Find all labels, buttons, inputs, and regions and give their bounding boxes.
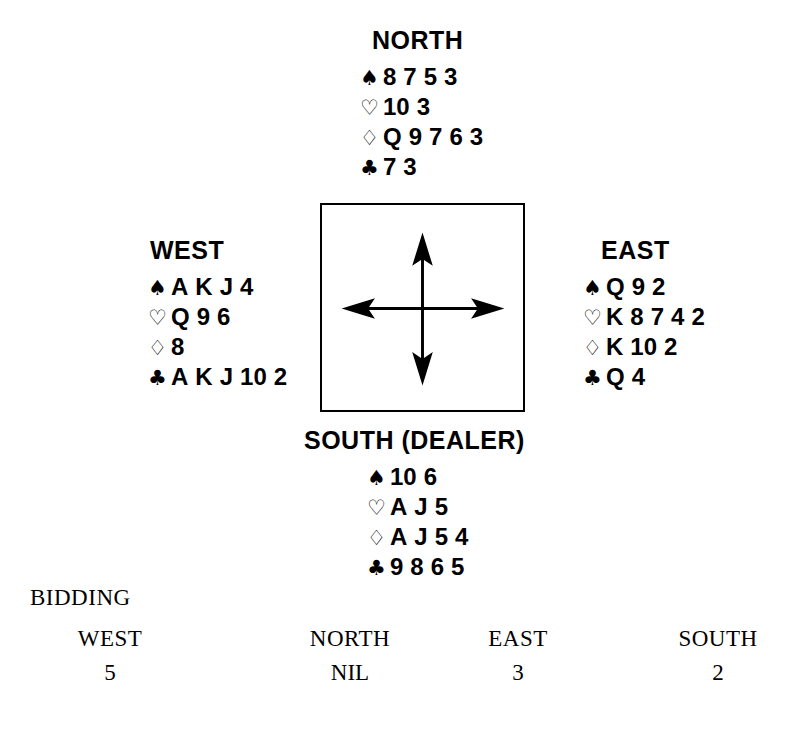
bidding-seat-label: NORTH (280, 624, 420, 654)
hand-south-suits: ♠ 106 ♡ AJ5 ♢ AJ54 ♣ 9865 (367, 462, 525, 582)
club-icon: ♣ (360, 153, 383, 183)
club-icon: ♣ (583, 363, 606, 393)
hand-north-diamond-cards: Q9763 (383, 122, 483, 152)
card: J (414, 523, 427, 550)
card: J (220, 273, 233, 300)
hand-south-diamond-cards: AJ54 (390, 522, 468, 552)
card: A (390, 523, 407, 550)
club-icon: ♣ (148, 363, 171, 393)
bidding-title: BIDDING (30, 586, 131, 609)
bridge-deal-diagram: NORTH ♠ 8753 ♡ 103 ♢ Q9763 ♣ (0, 0, 796, 744)
card: 7 (651, 303, 664, 330)
card: 3 (403, 153, 416, 180)
spade-icon: ♠ (583, 273, 606, 303)
card: 7 (429, 123, 442, 150)
compass-box (320, 203, 525, 412)
hand-west-club-cards: AKJ102 (171, 362, 287, 392)
card: 10 (390, 463, 417, 490)
card: J (220, 363, 233, 390)
card: 10 (240, 363, 267, 390)
card: A (390, 493, 407, 520)
card: 2 (274, 363, 287, 390)
card: 8 (171, 333, 184, 360)
hand-north-label: NORTH (372, 28, 483, 53)
card: 4 (671, 303, 684, 330)
card: 5 (435, 493, 448, 520)
card: Q (383, 123, 402, 150)
hand-south-label: SOUTH (DEALER) (304, 428, 525, 453)
spade-icon: ♠ (148, 273, 171, 303)
heart-icon: ♡ (148, 303, 171, 333)
suit-row-club: ♣ AKJ102 (148, 362, 287, 392)
compass-arrows-icon (322, 205, 523, 410)
hand-north: NORTH ♠ 8753 ♡ 103 ♢ Q9763 ♣ (360, 28, 483, 182)
spade-icon: ♠ (360, 63, 383, 93)
suit-row-club: ♣ 9865 (367, 552, 525, 582)
card: K (195, 363, 212, 390)
suit-row-heart: ♡ Q96 (148, 302, 287, 332)
card: 2 (664, 333, 677, 360)
bidding-column-east: EAST 3 (455, 624, 581, 688)
hand-west-label: WEST (150, 238, 287, 263)
card: 6 (217, 303, 230, 330)
card: 4 (632, 363, 645, 390)
card: 10 (630, 333, 657, 360)
suit-row-diamond: ♢ 8 (148, 332, 287, 362)
suit-row-diamond: ♢ K102 (583, 332, 705, 362)
card: 6 (449, 123, 462, 150)
card: 3 (417, 93, 430, 120)
card: 5 (424, 63, 437, 90)
suit-row-heart: ♡ K8742 (583, 302, 705, 332)
card: 5 (451, 553, 464, 580)
card: 2 (652, 273, 665, 300)
card: A (171, 363, 188, 390)
bidding-column-south: SOUTH 2 (648, 624, 788, 688)
bidding-call-value: 2 (648, 658, 788, 688)
hand-east: EAST ♠ Q92 ♡ K8742 ♢ K102 ♣ (583, 238, 705, 392)
suit-row-spade: ♠ Q92 (583, 272, 705, 302)
hand-south-spade-cards: 106 (390, 462, 437, 492)
card: Q (606, 273, 625, 300)
hand-east-diamond-cards: K102 (606, 332, 677, 362)
card: A (171, 273, 188, 300)
card: 7 (403, 63, 416, 90)
card: Q (171, 303, 190, 330)
spade-icon: ♠ (367, 463, 390, 493)
hand-north-spade-cards: 8753 (383, 62, 457, 92)
diamond-icon: ♢ (367, 523, 390, 553)
card: 8 (630, 303, 643, 330)
card: 9 (390, 553, 403, 580)
hand-west-heart-cards: Q96 (171, 302, 230, 332)
card: J (414, 493, 427, 520)
hand-south-club-cards: 9865 (390, 552, 464, 582)
hand-north-suits: ♠ 8753 ♡ 103 ♢ Q9763 ♣ 73 (360, 62, 483, 182)
suit-row-club: ♣ Q4 (583, 362, 705, 392)
card: 10 (383, 93, 410, 120)
card: 4 (455, 523, 468, 550)
diamond-icon: ♢ (360, 123, 383, 153)
card: 9 (409, 123, 422, 150)
hand-north-heart-cards: 103 (383, 92, 430, 122)
bidding-call-value: 3 (455, 658, 581, 688)
bidding-column-north: NORTH NIL (280, 624, 420, 688)
hand-west-spade-cards: AKJ4 (171, 272, 253, 302)
card: 7 (383, 153, 396, 180)
card: 9 (197, 303, 210, 330)
suit-row-diamond: ♢ Q9763 (360, 122, 483, 152)
hand-east-label: EAST (601, 238, 705, 263)
card: 8 (410, 553, 423, 580)
card: K (606, 333, 623, 360)
diamond-icon: ♢ (148, 333, 171, 363)
bidding-seat-label: EAST (455, 624, 581, 654)
hand-east-heart-cards: K8742 (606, 302, 705, 332)
card: 4 (240, 273, 253, 300)
heart-icon: ♡ (367, 493, 390, 523)
bidding-call-value: NIL (280, 658, 420, 688)
hand-north-club-cards: 73 (383, 152, 417, 182)
card: 3 (470, 123, 483, 150)
suit-row-diamond: ♢ AJ54 (367, 522, 525, 552)
heart-icon: ♡ (360, 93, 383, 123)
card: 9 (632, 273, 645, 300)
hand-west-diamond-cards: 8 (171, 332, 184, 362)
card: K (606, 303, 623, 330)
